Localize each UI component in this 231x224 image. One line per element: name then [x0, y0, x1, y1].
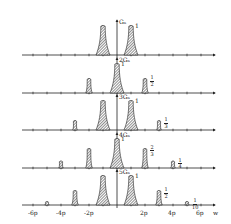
spectral-peak	[124, 100, 138, 130]
spectral-peak	[185, 201, 189, 205]
spectral-peak	[171, 161, 175, 168]
spectral-peak	[86, 148, 92, 168]
spectral-peak	[96, 100, 110, 130]
spectral-peak	[96, 175, 110, 205]
spectral-peak	[157, 120, 161, 130]
x-axis-label: w	[213, 210, 218, 216]
amplitude-fraction-label: 12	[150, 75, 154, 87]
amplitude-label: 1	[121, 136, 125, 142]
amplitude-fraction-label: 13	[164, 117, 168, 129]
spectral-peak	[124, 175, 138, 205]
x-tick-label: 2p	[140, 210, 148, 216]
spectral-peak	[124, 25, 138, 55]
fraction-numerator: 1	[164, 117, 167, 122]
y-axis-label: 5Gₙ	[119, 169, 130, 175]
x-tick-label: -6p	[28, 210, 38, 216]
spectral-peak	[96, 25, 110, 55]
fraction-numerator: 1	[178, 158, 181, 163]
y-axis-label: 3Gₙ	[119, 94, 130, 100]
amplitude-label: 1	[135, 23, 139, 29]
spectral-peak	[110, 63, 124, 93]
fraction-denominator: 2	[164, 194, 167, 199]
amplitude-fraction-label: 110	[192, 198, 198, 210]
amplitude-label: 1	[135, 98, 139, 104]
x-tick-label: -4p	[56, 210, 66, 216]
fraction-denominator: 3	[150, 152, 153, 157]
fraction-numerator: 1	[150, 75, 153, 80]
spectral-peak	[86, 78, 92, 93]
spectral-peak	[72, 190, 78, 205]
amplitude-fraction-label: 14	[178, 158, 182, 170]
x-tick-label: 6p	[196, 210, 204, 216]
amplitude-label: 1	[135, 173, 139, 179]
fraction-numerator: 1	[164, 187, 167, 192]
x-tick-label: 4p	[168, 210, 176, 216]
fraction-numerator: 2	[150, 145, 153, 150]
amplitude-fraction-label: 12	[164, 187, 168, 199]
spectral-peak	[73, 120, 77, 130]
fraction-denominator: 3	[164, 124, 167, 129]
axes-layer	[22, 20, 215, 208]
fraction-numerator: 1	[194, 198, 197, 203]
spectral-peak	[45, 201, 49, 205]
x-tick-label: -2p	[84, 210, 94, 216]
spectral-peak	[142, 78, 148, 93]
spectrum-figure	[0, 0, 231, 224]
fraction-denominator: 2	[150, 82, 153, 87]
spectral-peak	[110, 138, 124, 168]
y-axis-label: Gₙ	[119, 19, 126, 25]
spectral-peak	[156, 190, 162, 205]
amplitude-label: 1	[121, 61, 125, 67]
spectral-peak	[59, 161, 63, 168]
fraction-denominator: 4	[178, 164, 181, 169]
amplitude-fraction-label: 23	[150, 145, 154, 157]
spectral-peak	[142, 148, 148, 168]
